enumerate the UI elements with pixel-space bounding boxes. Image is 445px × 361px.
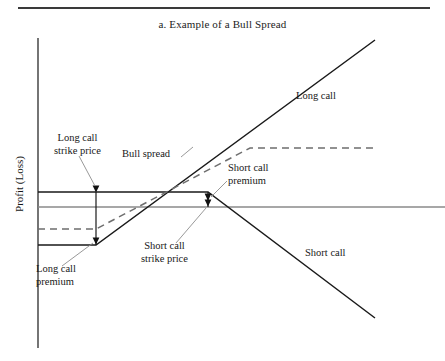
short-call-premium-leader [211,181,227,197]
long-call-strike-price-line2: strike price [54,145,101,156]
bull-spread-curve-label-text: Bull spread [122,148,170,159]
long-call-premium-line2: premium [36,276,74,287]
long-call-curve-label-text: Long call [296,90,336,101]
short-call-premium-line1: Short call [228,162,269,173]
short-call-premium-arrowhead-bottom [205,200,212,207]
short-call-curve-label-text: Short call [305,247,346,258]
short-call-strike-leader [176,208,206,243]
long-call-strike-price-label: Long call strike price [54,132,101,157]
short-call-premium-label: Short call premium [228,162,269,187]
figure-page: a. Example of a Bull Spread Profit (Loss… [0,0,445,361]
bull-spread-line [38,148,377,229]
short-call-curve-label: Short call [305,247,346,260]
long-call-curve-label: Long call [296,90,336,103]
short-call-strike-price-label: Short call strike price [141,240,188,265]
short-call-strike-price-line2: strike price [141,253,188,264]
short-call-premium-line2: premium [228,175,266,186]
short-call-strike-price-line1: Short call [144,240,185,251]
long-call-premium-label: Long call premium [36,263,76,288]
long-call-premium-line1: Long call [36,263,76,274]
long-call-strike-leader [79,156,95,186]
long-call-strike-price-line1: Long call [57,132,97,143]
bull-spread-leader [181,147,193,157]
bull-spread-curve-label: Bull spread [122,148,170,161]
payoff-diagram [0,0,445,361]
